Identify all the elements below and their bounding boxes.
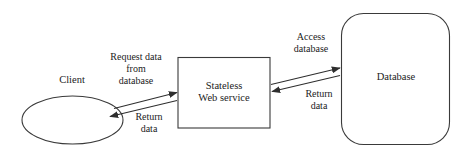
edge-access-db-arrow <box>271 68 340 85</box>
diagram-canvas: Client Stateless Web service Database Re… <box>0 0 463 152</box>
node-database-shape[interactable] <box>342 14 450 145</box>
node-client-shape[interactable] <box>22 96 123 144</box>
edge-return-client-arrow <box>110 101 177 117</box>
diagram-shapes-and-arrows <box>0 0 463 152</box>
edge-request-data-arrow <box>114 93 177 109</box>
edge-return-db-arrow <box>272 76 340 92</box>
node-service-shape[interactable] <box>178 58 270 129</box>
